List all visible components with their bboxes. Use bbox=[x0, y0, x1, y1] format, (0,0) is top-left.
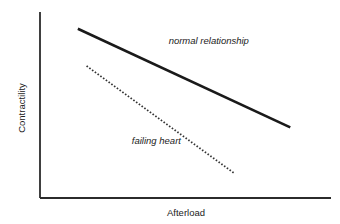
failing-heart-label: failing heart bbox=[132, 135, 181, 146]
contractility-afterload-diagram: normal relationship failing heart Afterl… bbox=[0, 0, 340, 224]
x-axis-label: Afterload bbox=[167, 207, 205, 218]
y-axis-label: Contractility bbox=[16, 83, 27, 133]
normal-relationship-label: normal relationship bbox=[169, 35, 249, 46]
failing-heart-line bbox=[87, 66, 235, 174]
